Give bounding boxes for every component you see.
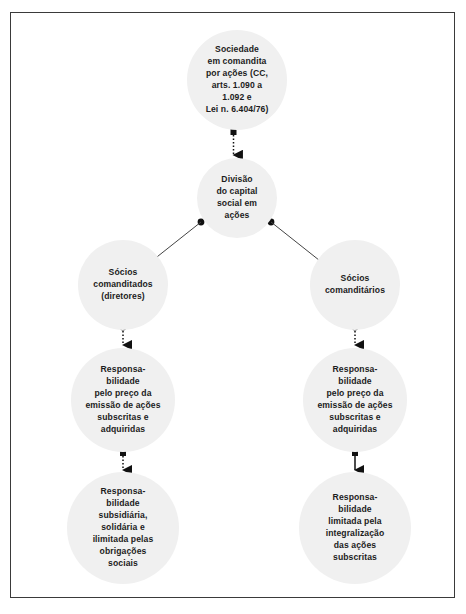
- node-responsabilidade-subsidiaria-ilimitada: Responsa- bilidade subsidiária, solidári…: [67, 472, 179, 584]
- node-label: Divisão do capital social em ações: [210, 174, 263, 221]
- node-label: Sócios comanditários: [319, 273, 391, 297]
- node-sociedade-em-comandita: Sociedade em comandita por ações (CC, ar…: [187, 30, 287, 130]
- diagram-page: Sociedade em comandita por ações (CC, ar…: [0, 0, 466, 614]
- connector-top-to-division: [231, 129, 237, 155]
- node-label: Responsa- bilidade subsidiária, solidári…: [87, 486, 160, 569]
- node-label: Sócios comanditados (diretores): [87, 267, 158, 303]
- node-label: Responsa- bilidade limitada pela integra…: [320, 492, 391, 563]
- node-socios-comanditarios: Sócios comanditários: [310, 240, 400, 330]
- connector-resp-left-mid-to-resp-left-bottom: [120, 450, 126, 470]
- node-responsabilidade-preco-emissao-left: Responsa- bilidade pelo preço da emissão…: [71, 348, 175, 452]
- node-label: Responsa- bilidade pelo preço da emissão…: [311, 364, 398, 435]
- node-divisao-do-capital-social: Divisão do capital social em ações: [197, 158, 277, 238]
- node-responsabilidade-limitada-integralizacao: Responsa- bilidade limitada pela integra…: [299, 472, 411, 584]
- node-socios-comanditados: Sócios comanditados (diretores): [78, 240, 168, 330]
- node-label: Responsa- bilidade pelo preço da emissão…: [79, 364, 166, 435]
- connector-resp-right-mid-to-resp-right-bottom: [352, 450, 358, 470]
- node-responsabilidade-preco-emissao-right: Responsa- bilidade pelo preço da emissão…: [303, 348, 407, 452]
- node-label: Sociedade em comandita por ações (CC, ar…: [200, 44, 275, 115]
